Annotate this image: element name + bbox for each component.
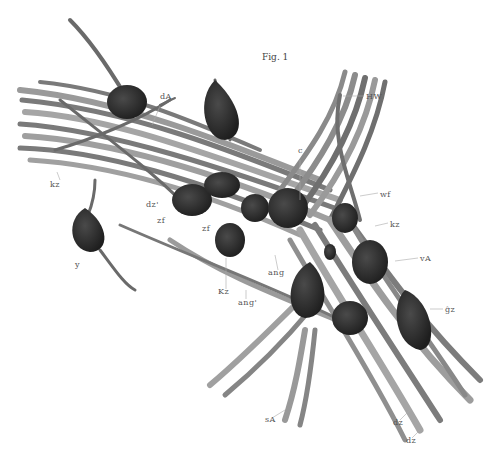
label-kz-right: kz [390, 220, 400, 229]
label-dz-1: dz [393, 418, 403, 427]
cell-center-1 [241, 194, 269, 222]
label-c: c [298, 146, 303, 155]
nerve-fiber-illustration [0, 0, 490, 460]
label-kz-left: kz [50, 180, 60, 189]
label-Kz: Kz [218, 287, 229, 296]
cell-dA [107, 85, 147, 119]
label-ang: ang [268, 268, 285, 277]
label-zf-2: zf [202, 224, 210, 233]
cell-ang [291, 262, 325, 318]
cell-lower-mid [332, 301, 368, 335]
label-dz-2: dz [406, 436, 416, 445]
cell-vA [352, 240, 388, 284]
cell-zf2 [215, 223, 245, 257]
cell-small [324, 244, 336, 260]
fiber-bundle-lower-right [290, 215, 480, 440]
label-sA: sA [265, 415, 276, 424]
cell-gz [397, 290, 432, 350]
label-vA: vA [420, 254, 431, 263]
label-dz-prime: dz' [146, 200, 159, 209]
cell-left-y [72, 208, 104, 252]
cell-zf1b [204, 172, 240, 198]
fiber-bundle-lower-left [120, 225, 360, 425]
label-HW: HW [366, 92, 382, 101]
label-wf: wf [380, 190, 391, 199]
histology-figure: Fig. 1 HW dA kz dz' c wf kz zf zf y vA a… [0, 0, 490, 460]
label-gz: ĝz [445, 305, 455, 314]
label-ang-prime: ang' [238, 298, 257, 307]
cell-top-mid [204, 80, 239, 140]
figure-title: Fig. 1 [262, 52, 288, 62]
cell-right-c [332, 203, 358, 233]
label-zf-1: zf [157, 216, 165, 225]
label-y: y [75, 260, 80, 269]
cell-center-2 [268, 188, 308, 228]
label-dA: dA [160, 92, 172, 101]
